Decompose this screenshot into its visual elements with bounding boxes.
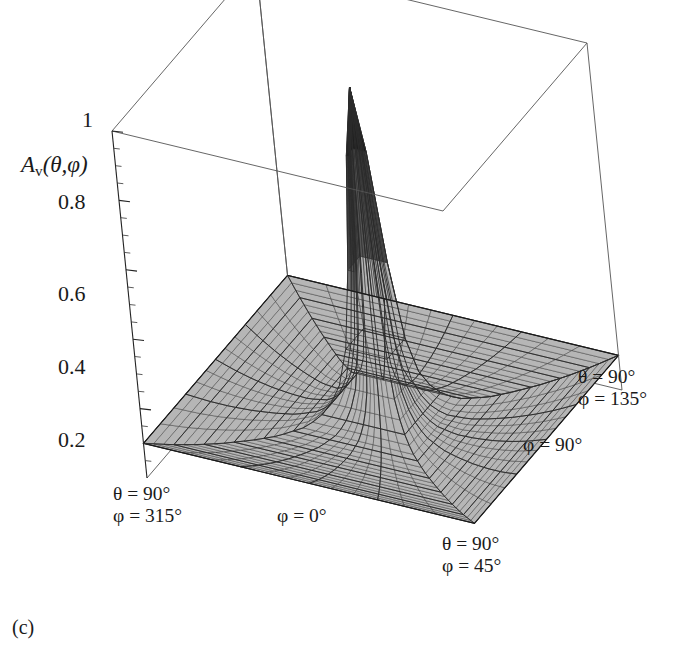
edge-label-phi-0: φ = 0°	[277, 505, 327, 527]
z-tick-label-0.4: 0.4	[58, 355, 86, 380]
z-tick-label-0.8: 0.8	[58, 190, 86, 215]
corner-label-back-left: θ = 90° φ = 315°	[113, 483, 182, 527]
corner-label-back-left-theta: θ = 90°	[113, 483, 182, 505]
z-tick-label-1: 1	[82, 108, 93, 133]
figure-panel: 1 0.8 0.6 0.4 0.2 Av(θ,φ) θ = 90° φ = 31…	[0, 0, 677, 663]
z-axis-title: Av(θ,φ)	[21, 152, 88, 179]
z-axis	[112, 131, 151, 478]
corner-label-front-right-phi: φ = 45°	[442, 555, 501, 577]
z-axis-title-subscript: v	[35, 162, 43, 179]
corner-label-back-left-phi: φ = 315°	[113, 505, 182, 527]
surface-mesh	[144, 87, 619, 523]
z-tick-label-0.2: 0.2	[58, 428, 86, 453]
z-axis-title-args: (θ,φ)	[43, 152, 88, 177]
z-tick-label-0.6: 0.6	[58, 282, 86, 307]
corner-label-back-right-theta: θ = 90°	[578, 366, 647, 388]
z-axis-title-symbol: A	[21, 152, 35, 177]
edge-label-phi-90: φ = 90°	[523, 434, 582, 456]
figure-caption: (c)	[12, 616, 34, 638]
surface-plot-3d	[0, 0, 677, 663]
corner-label-back-right: θ = 90° φ = 135°	[578, 366, 647, 410]
corner-label-back-right-phi: φ = 135°	[578, 388, 647, 410]
corner-label-front-right-theta: θ = 90°	[442, 533, 501, 555]
corner-label-front-right: θ = 90° φ = 45°	[442, 533, 501, 577]
